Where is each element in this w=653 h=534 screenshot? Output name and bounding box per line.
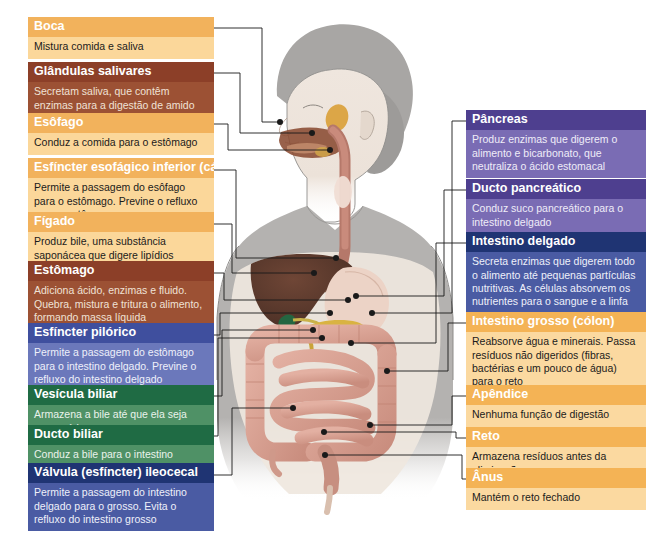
label-apendice-text: Nenhuma função de digestão <box>466 405 646 426</box>
label-pancreas[interactable]: Pâncreas Produz enzimas que digerem o al… <box>466 110 646 178</box>
label-boca-title: Boca <box>28 17 214 37</box>
label-ducto-pancreatico[interactable]: Ducto pancreático Conduz suco pancreátic… <box>466 179 646 234</box>
label-esofago-title: Esôfago <box>28 113 214 133</box>
label-apendice-title: Apêndice <box>466 385 646 405</box>
label-anus[interactable]: Ânus Mantém o reto fechado <box>466 468 646 510</box>
label-intestino-grosso[interactable]: Intestino grosso (cólon) Reabsorve água … <box>466 312 646 394</box>
label-cardia-title: Esfíncter esofágico inferior (cárdia) <box>28 158 214 178</box>
label-glandulas-salivares[interactable]: Glândulas salivares Secretam saliva, que… <box>28 62 214 117</box>
organ-rectum <box>325 452 332 488</box>
label-ducto-biliar-title: Ducto biliar <box>28 425 214 445</box>
label-ducto-pancreatico-title: Ducto pancreático <box>466 179 646 199</box>
label-piloro-title: Esfíncter pilórico <box>28 323 214 343</box>
label-figado[interactable]: Fígado Produz bile, uma substância sapon… <box>28 212 214 267</box>
label-boca-text: Mistura comida e saliva <box>28 37 214 58</box>
label-apendice[interactable]: Apêndice Nenhuma função de digestão <box>466 385 646 427</box>
label-reto-title: Reto <box>466 427 646 447</box>
label-glandulas-salivares-text: Secretam saliva, que contêm enzimas para… <box>28 82 214 117</box>
label-vesicula-biliar-title: Vesícula biliar <box>28 385 214 405</box>
label-estomago[interactable]: Estômago Adiciona ácido, enzimas e fluid… <box>28 261 214 329</box>
label-esofago[interactable]: Esôfago Conduz a comida para o estômago <box>28 113 214 155</box>
label-intestino-delgado[interactable]: Intestino delgado Secreta enzimas que di… <box>466 232 646 314</box>
label-valvula-ileocecal-text: Permite a passagem do intestino delgado … <box>28 483 214 531</box>
label-intestino-delgado-title: Intestino delgado <box>466 232 646 252</box>
label-valvula-ileocecal-title: Válvula (esfíncter) ileocecal <box>28 463 214 483</box>
label-figado-title: Fígado <box>28 212 214 232</box>
organ-salivary-gland-lower <box>315 147 331 157</box>
label-valvula-ileocecal[interactable]: Válvula (esfíncter) ileocecal Permite a … <box>28 463 214 531</box>
anatomical-figure <box>215 0 465 534</box>
organ-anus <box>327 488 330 512</box>
label-intestino-grosso-title: Intestino grosso (cólon) <box>466 312 646 332</box>
label-anus-text: Mantém o reto fechado <box>466 488 646 509</box>
label-ducto-pancreatico-text: Conduz suco pancreático para o intestino… <box>466 199 646 234</box>
label-piloro[interactable]: Esfíncter pilórico Permite a passagem do… <box>28 323 214 391</box>
organ-esophagus-bulge <box>334 176 352 208</box>
label-pancreas-title: Pâncreas <box>466 110 646 130</box>
label-anus-title: Ânus <box>466 468 646 488</box>
label-boca[interactable]: Boca Mistura comida e saliva <box>28 17 214 59</box>
label-glandulas-salivares-title: Glândulas salivares <box>28 62 214 82</box>
label-esofago-text: Conduz a comida para o estômago <box>28 133 214 154</box>
label-estomago-title: Estômago <box>28 261 214 281</box>
label-intestino-delgado-text: Secreta enzimas que digerem todo o alime… <box>466 252 646 314</box>
label-pancreas-text: Produz enzimas que digerem o alimento e … <box>466 130 646 178</box>
digestive-system-diagram: Boca Mistura comida e saliva Glândulas s… <box>0 0 653 534</box>
